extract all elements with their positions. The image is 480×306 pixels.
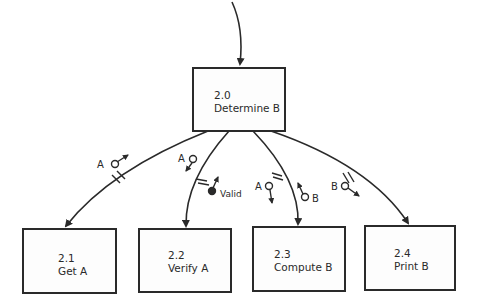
module-number: 2.4	[394, 247, 411, 259]
module-number: 2.3	[274, 248, 291, 260]
module-name: Verify A	[168, 262, 208, 274]
double-bar-marks	[112, 171, 354, 185]
control-couple-icon	[209, 188, 216, 195]
couple-label: A	[97, 159, 104, 170]
couple-label: A	[255, 181, 262, 192]
couple-label: A	[178, 153, 185, 164]
module-number: 2.1	[58, 252, 75, 264]
module-2-3: 2.3 Compute B	[252, 226, 346, 292]
couple-label: B	[312, 193, 319, 204]
couple-label: B	[331, 181, 338, 192]
module-number: 2.2	[168, 249, 185, 261]
module-name: Print B	[394, 260, 429, 272]
call-arrow-2-2	[186, 131, 229, 226]
data-couple-icon	[190, 156, 197, 163]
couple-label: Valid	[220, 189, 242, 200]
data-couple-icon	[302, 194, 309, 201]
module-2-2: 2.2 Verify A	[138, 228, 232, 293]
data-couple-icon	[266, 183, 273, 190]
data-couple-icon	[342, 183, 349, 190]
module-2-4: 2.4 Print B	[364, 225, 456, 291]
module-2-0: 2.0 Determine B	[192, 67, 286, 132]
module-name: Compute B	[274, 261, 332, 273]
call-arrow-into-2-0	[232, 2, 241, 64]
module-name: Determine B	[214, 102, 280, 114]
module-name: Get A	[58, 265, 87, 277]
module-number: 2.0	[214, 89, 231, 101]
call-arrow-2-4	[271, 131, 408, 223]
module-2-1: 2.1 Get A	[22, 228, 117, 294]
